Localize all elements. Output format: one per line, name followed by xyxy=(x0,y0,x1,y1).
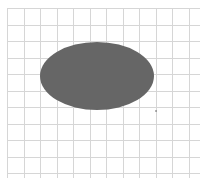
stray-dot xyxy=(155,110,157,112)
filled-ellipse[interactable] xyxy=(40,42,154,110)
drawing-canvas[interactable] xyxy=(0,0,204,181)
